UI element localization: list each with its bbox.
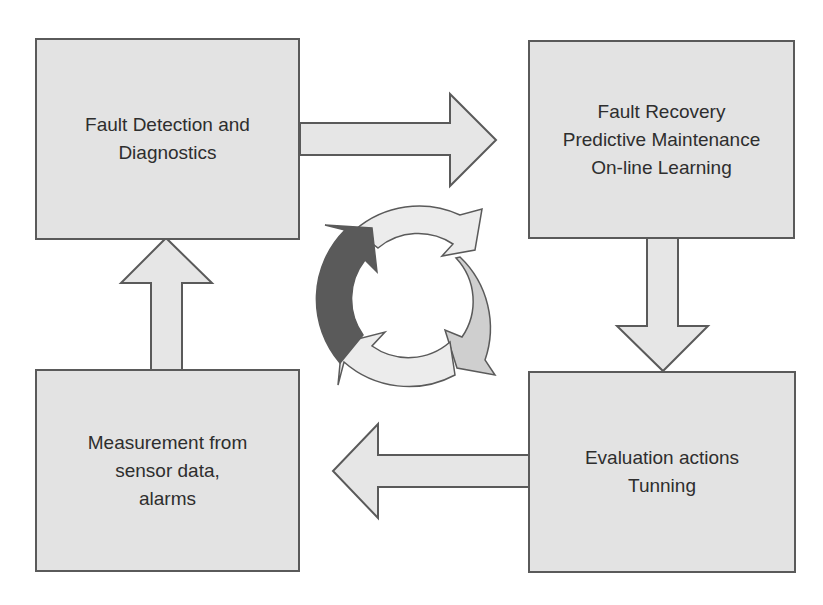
evaluation-label-line-1: Evaluation actions: [585, 444, 739, 472]
measurement-label-line-3: alarms: [88, 485, 247, 513]
evaluation-box: Evaluation actions Tunning: [528, 371, 796, 573]
evaluation-label-line-2: Tunning: [585, 472, 739, 500]
fault-recovery-box: Fault Recovery Predictive Maintenance On…: [528, 40, 795, 239]
arrow-up-icon: [121, 238, 212, 370]
measurement-label-line-1: Measurement from: [88, 429, 247, 457]
fault-recovery-label-line-3: On-line Learning: [563, 154, 761, 182]
fault-recovery-label-line-1: Fault Recovery: [563, 98, 761, 126]
fault-detection-box: Fault Detection and Diagnostics: [35, 38, 300, 240]
measurement-label-line-2: sensor data,: [88, 457, 247, 485]
arrow-right-icon: [300, 94, 496, 186]
measurement-box: Measurement from sensor data, alarms: [35, 369, 300, 572]
arrow-left-icon: [333, 424, 529, 518]
cycle-icon: [316, 206, 495, 386]
fault-detection-label-line-1: Fault Detection and: [85, 111, 250, 139]
fault-detection-label-line-2: Diagnostics: [85, 139, 250, 167]
fault-recovery-label-line-2: Predictive Maintenance: [563, 126, 761, 154]
arrow-down-icon: [617, 238, 708, 371]
